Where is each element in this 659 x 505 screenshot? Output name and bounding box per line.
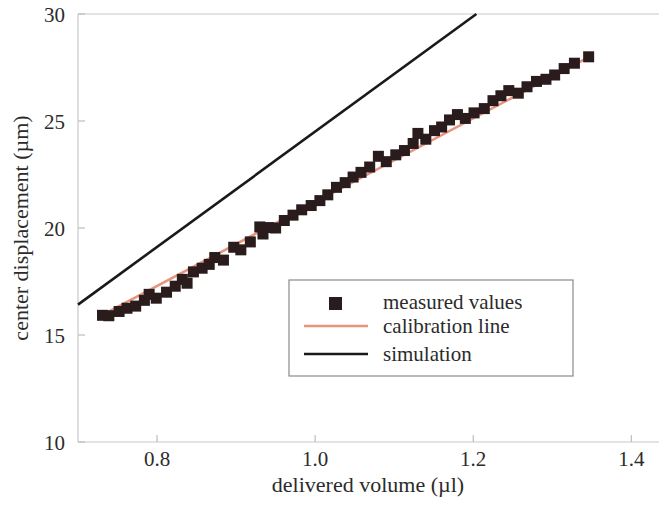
x-tick-label-1.0: 1.0 xyxy=(302,447,328,471)
data-point xyxy=(245,236,256,247)
legend-label-simulation: simulation xyxy=(383,342,472,366)
x-axis-title: delivered volume (µl) xyxy=(272,472,464,497)
data-point xyxy=(151,293,162,304)
legend-label-calibration-line: calibration line xyxy=(383,314,510,338)
data-point xyxy=(569,58,580,69)
legend-marker-measured-values xyxy=(329,297,342,310)
data-point xyxy=(364,162,375,173)
y-tick-label-10: 10 xyxy=(44,431,65,455)
data-point xyxy=(503,85,514,96)
plot-frame xyxy=(78,14,659,442)
y-axis-ticks xyxy=(78,14,85,442)
data-point xyxy=(218,255,229,266)
chart-figure: 1015202530 0.81.01.21.4 measured values … xyxy=(0,0,659,505)
data-point xyxy=(103,310,114,321)
data-point xyxy=(549,69,560,80)
legend-label-measured-values: measured values xyxy=(383,290,522,314)
data-point xyxy=(381,156,392,167)
scatter-plot: 1015202530 0.81.01.21.4 measured values … xyxy=(0,0,659,505)
data-point xyxy=(521,81,532,92)
x-tick-label-0.8: 0.8 xyxy=(144,447,170,471)
x-axis-tick-labels: 0.81.01.21.4 xyxy=(144,447,645,471)
x-tick-label-1.4: 1.4 xyxy=(618,447,645,471)
chart-legend: measured values calibration line simulat… xyxy=(289,280,573,376)
data-point xyxy=(296,204,307,215)
y-tick-label-25: 25 xyxy=(44,110,65,134)
data-point xyxy=(235,244,246,255)
data-point xyxy=(559,63,570,74)
data-point xyxy=(583,51,594,62)
x-axis-ticks xyxy=(157,435,631,442)
series-simulation-line xyxy=(78,14,476,305)
y-tick-label-20: 20 xyxy=(44,217,65,241)
simulation-line xyxy=(78,14,476,305)
data-point xyxy=(182,278,193,289)
data-point xyxy=(531,76,542,87)
y-axis-title: center displacement (µm) xyxy=(8,115,33,340)
data-point xyxy=(469,107,480,118)
data-point xyxy=(408,138,419,149)
y-tick-label-30: 30 xyxy=(44,3,65,27)
x-tick-label-1.2: 1.2 xyxy=(460,447,486,471)
y-axis-tick-labels: 1015202530 xyxy=(44,3,65,455)
y-tick-label-15: 15 xyxy=(44,324,65,348)
